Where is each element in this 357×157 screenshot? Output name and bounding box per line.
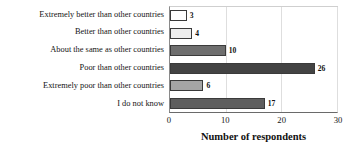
bar-row: 10 [170,42,337,60]
category-label-about-the-same: About the same as other countries [50,46,164,55]
x-tick-label: 30 [334,115,343,125]
category-row: Extremely poor than other countries [0,77,167,95]
bar-row: 3 [170,7,337,25]
plot-area: 3 4 10 26 6 17 [169,6,338,113]
bar-value-label: 4 [195,29,199,38]
gridline [337,7,338,112]
category-label-do-not-know: I do not know [117,100,164,109]
x-tick-label: 10 [221,115,230,125]
bar-extremely-better [170,10,187,21]
category-axis: Extremely better than other countries Be… [0,6,167,113]
bar-chart: Extremely better than other countries Be… [0,0,357,157]
bar-do-not-know [170,98,265,109]
category-label-better: Better than other countries [75,28,164,37]
bar-row: 4 [170,25,337,43]
bar-value-label: 10 [229,46,237,55]
bar-value-label: 6 [206,81,210,90]
x-tick-label: 20 [277,115,286,125]
bar-value-label: 17 [268,99,276,108]
bar-row: 17 [170,95,337,113]
x-axis-ticks: 0102030 [169,115,338,129]
bar-row: 6 [170,77,337,95]
bar-about-the-same [170,45,226,56]
category-label-poor: Poor than other countries [80,64,164,73]
bar-poor [170,63,315,74]
category-label-extremely-better: Extremely better than other countries [39,11,164,20]
category-label-extremely-poor: Extremely poor than other countries [43,82,164,91]
category-row: I do not know [0,95,167,113]
bar-better [170,28,192,39]
category-row: Better than other countries [0,24,167,42]
category-row: About the same as other countries [0,42,167,60]
bar-row: 26 [170,60,337,78]
x-tick-label: 0 [167,115,171,125]
bar-value-label: 3 [190,11,194,20]
bar-extremely-poor [170,80,203,91]
bar-series: 3 4 10 26 6 17 [170,7,337,112]
x-axis-title: Number of respondents [169,131,338,142]
bar-value-label: 26 [318,64,326,73]
category-row: Poor than other countries [0,59,167,77]
category-row: Extremely better than other countries [0,6,167,24]
